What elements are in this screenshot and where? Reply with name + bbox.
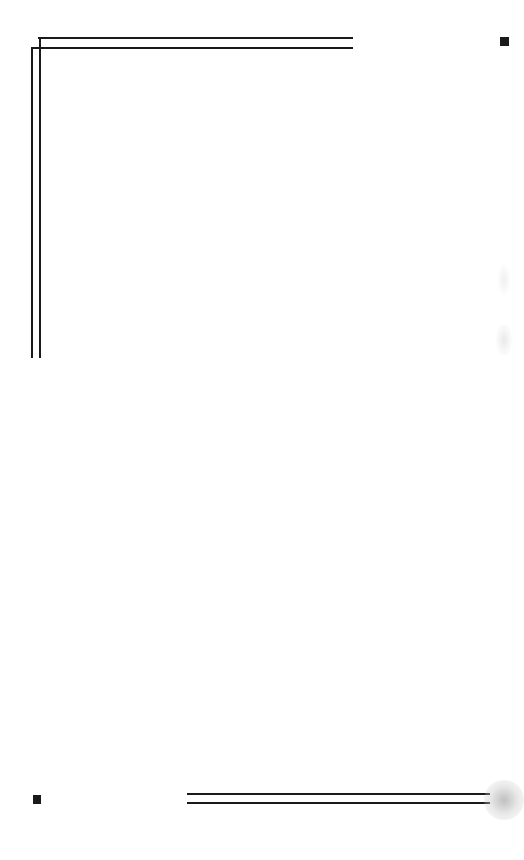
left-rule-inner <box>39 37 41 358</box>
bottom-rule-lower <box>187 802 490 804</box>
scan-smudge <box>498 265 510 295</box>
top-rule-outer <box>38 37 353 39</box>
bottom-rule-upper <box>187 793 490 795</box>
scan-smudge <box>484 780 524 820</box>
registration-mark-bottom-left <box>33 795 41 804</box>
top-rule-inner <box>31 47 353 49</box>
left-rule-outer <box>31 47 33 358</box>
scan-smudge <box>496 325 512 355</box>
registration-mark-top-right <box>500 37 509 46</box>
